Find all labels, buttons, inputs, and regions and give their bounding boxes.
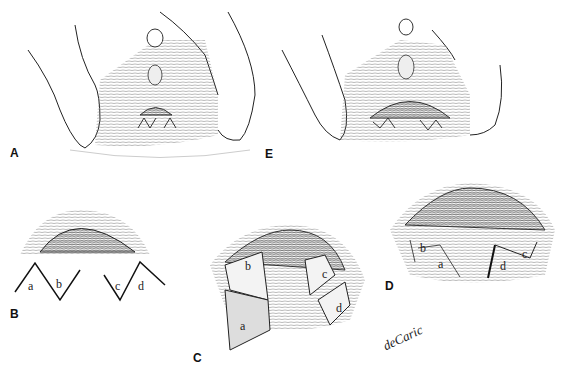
- flap-letter-c: c: [522, 247, 527, 261]
- panel-label-e: E: [265, 147, 273, 161]
- panel-a-drawing: [28, 12, 255, 158]
- panel-label-c: C: [193, 351, 202, 365]
- flap-letter-a: a: [240, 319, 246, 333]
- flap-letter-c: c: [115, 279, 120, 293]
- panel-label-a: A: [10, 146, 19, 160]
- flap-letter-d: d: [500, 259, 506, 273]
- illustration-canvas: a b c d b a c d b a d c: [0, 0, 561, 377]
- flap-letter-b: b: [245, 259, 251, 273]
- flap-letter-a: a: [28, 279, 34, 293]
- panel-c-drawing: b a c d: [210, 225, 365, 350]
- panel-label-d: D: [385, 279, 394, 293]
- flap-letter-c: c: [322, 267, 327, 281]
- panel-label-b: B: [10, 307, 19, 321]
- panel-b-drawing: a b c d: [15, 210, 165, 300]
- panel-d-drawing: b a d c: [390, 183, 555, 283]
- flap-letter-d: d: [138, 279, 144, 293]
- flap-letter-b: b: [420, 241, 426, 255]
- flap-letter-d: d: [336, 301, 342, 315]
- flap-letter-a: a: [438, 257, 444, 271]
- flap-letter-b: b: [56, 277, 62, 291]
- panel-e-drawing: [282, 19, 502, 142]
